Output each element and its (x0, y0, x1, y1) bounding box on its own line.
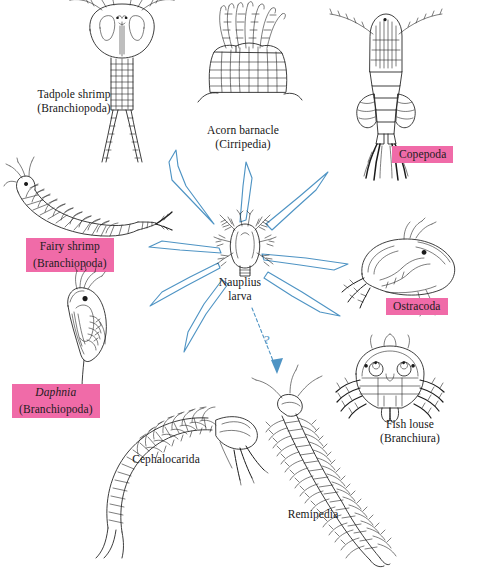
cephalocarida-label: Cephalocarida (106, 453, 226, 467)
acorn-barnacle-illustration (196, 4, 306, 122)
question-mark-annotation: ? (264, 332, 270, 347)
ostracoda-label: Ostracoda (386, 298, 448, 315)
copepoda-label: Copepoda (392, 146, 453, 163)
nauplius-larva-label: Nauplius larva (205, 276, 275, 303)
nauplius-larva-illustration (210, 208, 280, 280)
tadpole-shrimp-label: Tadpole shrimp (Branchiopoda) (14, 88, 134, 115)
fairy-shrimp-label: Fairy shrimp (Branchiopoda) (26, 238, 114, 272)
remipedia-illustration (242, 372, 402, 572)
remipedia-label: Remipedia (258, 508, 368, 522)
acorn-barnacle-label: Acorn barnacle (Cirripedia) (178, 124, 308, 151)
ostracoda-illustration (352, 228, 472, 308)
daphnia-illustration (48, 282, 128, 392)
crustacean-radiation-diagram: ? (0, 0, 480, 580)
fairy-shrimp-illustration (4, 166, 154, 246)
